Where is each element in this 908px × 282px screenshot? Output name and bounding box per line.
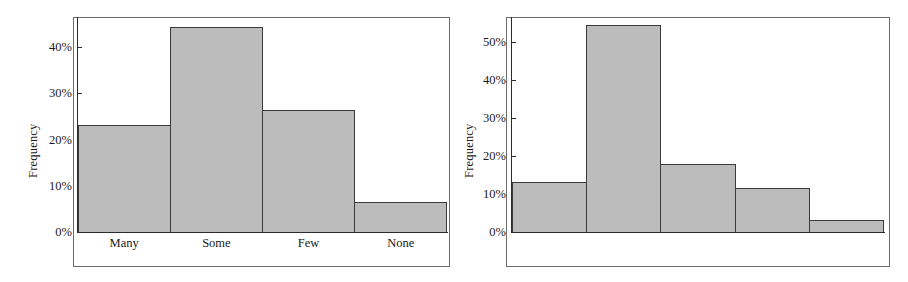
bar: [354, 202, 447, 232]
x-axis-labels-left: ManySomeFewNone: [78, 236, 447, 251]
bar: [809, 220, 884, 232]
figure-root: Frequency 0%10%20%30%40% ManySomeFewNone…: [0, 0, 908, 282]
bar: [170, 27, 263, 232]
bar: [735, 188, 810, 232]
x-axis-baseline-left: [77, 232, 448, 233]
bar: [78, 125, 171, 232]
y-tick-label-left-3: 30%: [31, 86, 72, 101]
y-tick-label-right-4: 40%: [465, 73, 506, 88]
x-axis-tick-label: Few: [263, 236, 355, 251]
y-tick-label-left-1: 10%: [31, 179, 72, 194]
bar-series-left: [78, 17, 447, 232]
y-tick-label-left-0: 0%: [31, 225, 72, 240]
chart-panel-left: Frequency 0%10%20%30%40% ManySomeFewNone: [0, 0, 454, 282]
x-axis-tick-label: Some: [170, 236, 262, 251]
plot-area-left: [78, 17, 447, 232]
y-tick-label-right-3: 30%: [465, 111, 506, 126]
plot-area-right: [512, 17, 884, 232]
bar: [660, 164, 735, 232]
y-tick-label-right-5: 50%: [465, 35, 506, 50]
y-tick-label-right-1: 10%: [465, 187, 506, 202]
x-axis-tick-label: Many: [78, 236, 170, 251]
y-tick-right-0: [511, 232, 516, 233]
bar: [586, 25, 661, 232]
y-tick-left-0: [77, 232, 82, 233]
bar: [512, 182, 587, 232]
y-tick-label-right-2: 20%: [465, 149, 506, 164]
y-tick-label-left-2: 20%: [31, 133, 72, 148]
x-axis-baseline-right: [511, 232, 885, 233]
bar-series-right: [512, 17, 884, 232]
y-tick-label-right-0: 0%: [465, 225, 506, 240]
bar: [262, 110, 355, 232]
y-tick-label-left-4: 40%: [31, 40, 72, 55]
x-axis-tick-label: None: [355, 236, 447, 251]
